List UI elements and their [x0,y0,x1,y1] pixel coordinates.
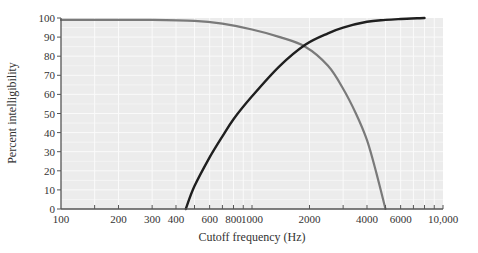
y-tick-label: 80 [44,50,56,62]
x-tick-label: 400 [168,213,185,225]
y-axis-title: Percent intelligibility [5,62,19,164]
y-tick-label: 40 [44,127,56,139]
x-tick-label: 200 [110,213,127,225]
y-tick-label: 100 [39,12,56,24]
x-tick-label: 600 [201,213,218,225]
y-tick-label: 50 [44,108,56,120]
y-tick-label: 70 [44,69,56,81]
x-tick-label: 4000 [356,213,379,225]
x-axis-title: Cutoff frequency (Hz) [198,230,305,244]
x-tick-label: 100 [53,213,70,225]
intelligibility-chart: 100200300400600800100020004000600010,000… [0,0,478,253]
y-tick-label: 20 [44,165,56,177]
y-tick-label: 90 [44,31,56,43]
x-tick-label: 6000 [390,213,413,225]
x-tick-label: 800 [225,213,242,225]
y-tick-label: 0 [50,203,56,215]
x-tick-label: 2000 [298,213,321,225]
grid-lines [61,18,443,209]
y-tick-label: 30 [44,146,56,158]
x-tick-label: 10,000 [428,213,459,225]
x-tick-label: 300 [144,213,161,225]
x-tick-label: 1000 [241,213,264,225]
y-tick-label: 60 [44,88,56,100]
y-tick-label: 10 [44,184,56,196]
y-axis-ticks: 0102030405060708090100 [39,12,62,215]
